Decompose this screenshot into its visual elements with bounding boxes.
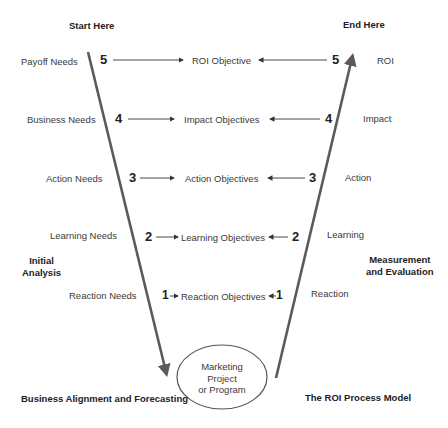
objective-2: Learning Objectives [181,232,265,243]
need-label-1: Reaction Needs [69,290,137,301]
level-number-right-3: 3 [309,170,316,185]
center-program-label: Marketing Project or Program [187,361,257,396]
objective-5: ROI Objective [192,55,251,66]
level-number-right-1: 1 [276,288,283,302]
level-number-right-4: 4 [325,111,332,126]
objective-4: Impact Objectives [184,114,260,125]
start-here-header: Start Here [69,20,114,31]
measure-2: Learning [327,229,364,240]
objective-3: Action Objectives [185,173,258,184]
objective-1: Reaction Objectives [181,291,265,302]
roi-process-model-footer: The ROI Process Model [305,392,411,403]
down-arrow-line [88,52,166,372]
business-alignment-footer: Business Alignment and Forecasting [21,393,188,404]
measure-3: Action [345,172,371,183]
level-number-left-2: 2 [145,229,152,244]
level-number-left-4: 4 [115,111,122,126]
end-here-header: End Here [343,19,385,30]
up-arrow-line [276,58,352,378]
need-label-5: Payoff Needs [21,56,78,67]
level-number-left-5: 5 [100,52,107,67]
level-number-left-1: 1 [162,288,169,302]
need-label-4: Business Needs [27,114,96,125]
level-number-left-3: 3 [129,170,136,185]
level-number-right-5: 5 [332,52,339,67]
measure-1: Reaction [311,288,349,299]
need-label-2: Learning Needs [50,230,117,241]
level-number-right-2: 2 [292,229,299,244]
initial-analysis-label: Initial Analysis [22,255,61,279]
need-label-3: Action Needs [46,173,103,184]
measure-4: Impact [363,113,392,124]
measure-5: ROI [377,55,394,66]
measurement-evaluation-label: Measurement and Evaluation [366,254,434,278]
